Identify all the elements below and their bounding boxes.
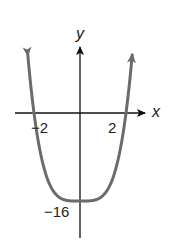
x-tick-label-neg2: −2: [31, 120, 48, 135]
y-axis-label: y: [76, 26, 84, 42]
x-axis-label: x: [152, 104, 160, 120]
function-graph: [0, 0, 174, 246]
x-tick-label-2: 2: [108, 120, 116, 135]
y-tick-label-neg16: −16: [44, 204, 69, 219]
